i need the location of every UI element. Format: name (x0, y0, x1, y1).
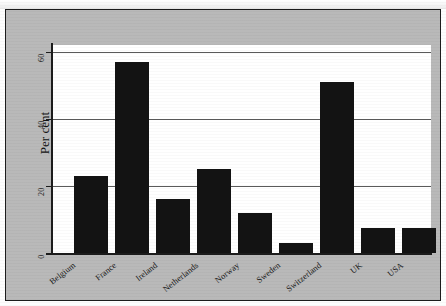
bar-ireland (156, 199, 190, 253)
x-axis-line (51, 253, 432, 255)
y-tick-label-0: 0 (37, 255, 46, 275)
y-tick-60 (46, 52, 52, 54)
x-tick-label-usa: USA (360, 260, 406, 299)
gridline-40 (52, 119, 431, 120)
bar-usa (402, 228, 436, 253)
y-tick-label-60: 60 (37, 53, 46, 73)
figure-canvas: 60 40 20 0 Per cent Belgium France Irela… (0, 0, 446, 306)
gridline-20 (52, 186, 431, 187)
x-tick-label-ireland: Ireland (114, 260, 160, 299)
x-tick-label-france: France (73, 260, 119, 299)
plot-area (52, 45, 431, 253)
x-tick-label-switzerland: Switzerland (278, 260, 324, 299)
scan-artifact-strip (0, 0, 446, 9)
bar-netherlands (197, 169, 231, 253)
y-tick-label-20: 20 (37, 187, 46, 207)
gridline-60 (52, 52, 431, 53)
bar-belgium (74, 176, 108, 253)
y-tick-20 (46, 186, 52, 188)
bar-sweden (279, 243, 313, 253)
bar-norway (238, 213, 272, 253)
y-axis-label: Per cent (37, 88, 53, 178)
bar-uk (361, 228, 395, 253)
bar-france (115, 62, 149, 253)
x-tick-label-sweden: Sweden (237, 260, 283, 299)
chart-outer-frame: 60 40 20 0 Per cent Belgium France Irela… (5, 9, 441, 301)
bar-switzerland (320, 82, 354, 253)
x-tick-label-netherlands: Netherlands (155, 260, 201, 299)
x-tick-label-norway: Norway (196, 260, 242, 299)
y-tick-0 (46, 253, 52, 255)
x-tick-label-uk: UK (319, 260, 365, 299)
